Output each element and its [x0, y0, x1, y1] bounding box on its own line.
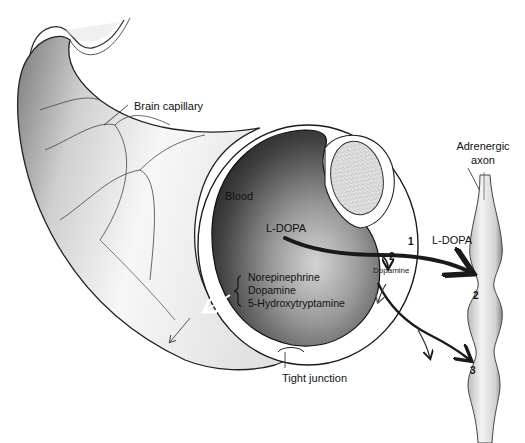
step-3-number: 3 [470, 366, 476, 376]
l-dopa-lumen-label: L-DOPA [266, 223, 306, 234]
tight-junction-label: Tight junction [282, 373, 347, 384]
amine-5-ht-label: 5-Hydroxytryptamine [248, 298, 345, 309]
step-1-number: 1 [408, 237, 414, 247]
adrenergic-axon [468, 172, 503, 443]
capillary-illustration [0, 0, 525, 443]
diagram-canvas: Brain capillary Blood L-DOPA L-DOPA Dopa… [0, 0, 525, 443]
adrenergic-axon-label-line2: axon [451, 155, 515, 166]
amine-dopamine-label: Dopamine [248, 285, 296, 296]
adrenergic-axon-label-line1: Adrenergic [451, 141, 515, 152]
amine-norepinephrine-label: Norepinephrine [248, 272, 320, 283]
dopamine-endothelial-label: Dopamine [373, 267, 409, 275]
blood-label: Blood [225, 191, 253, 202]
step-2-endothelial-number: 2 [389, 252, 395, 262]
brain-capillary-label: Brain capillary [134, 101, 203, 112]
step-2-axon-number: 2 [473, 291, 479, 301]
l-dopa-extracellular-label: L-DOPA [432, 235, 472, 246]
